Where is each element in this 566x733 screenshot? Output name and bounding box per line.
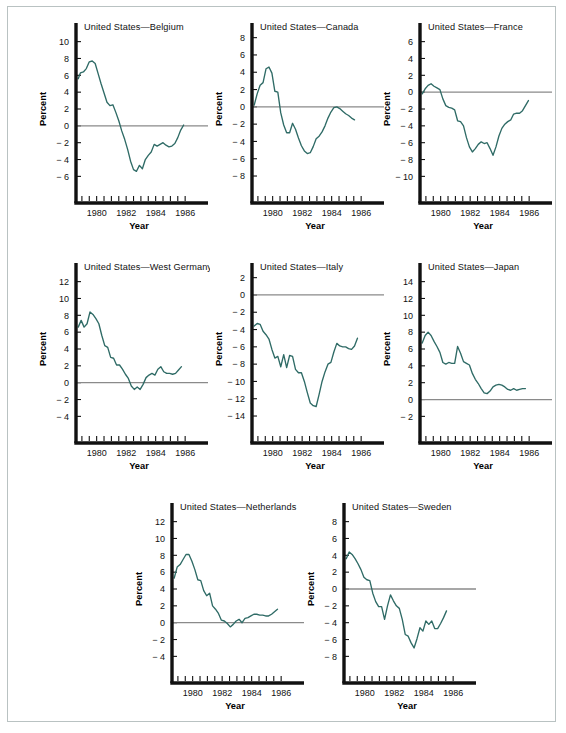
x-axis-title: Year xyxy=(473,461,493,471)
data-series-line xyxy=(254,67,354,153)
y-tick-label: − 4 xyxy=(56,412,69,422)
y-tick-label: 10 xyxy=(403,311,413,321)
y-tick-label: − 4 xyxy=(232,137,245,147)
y-tick-label: − 6 xyxy=(232,342,245,352)
figure-frame: United States—Belgium1086420− 2− 4− 6198… xyxy=(7,6,556,722)
x-tick-label: 1984 xyxy=(322,208,342,218)
data-series-line xyxy=(254,323,357,406)
x-tick-label: 1982 xyxy=(460,448,480,458)
y-tick-label: − 4 xyxy=(232,325,245,335)
x-tick-label: 1980 xyxy=(263,208,283,218)
data-series-line xyxy=(422,332,525,393)
y-tick-label: 12 xyxy=(403,294,413,304)
y-axis-title: Percent xyxy=(214,332,224,366)
y-tick-label: 6 xyxy=(160,567,165,577)
y-tick-label: 8 xyxy=(160,551,165,561)
y-tick-label: 0 xyxy=(64,378,69,388)
x-axis-title: Year xyxy=(473,221,493,231)
x-axis-title: Year xyxy=(305,461,325,471)
chart-panel: United States—West Germany121086420− 2− … xyxy=(30,251,208,479)
x-tick-label: 1986 xyxy=(519,208,539,218)
chart-title: United States—Belgium xyxy=(84,22,184,32)
x-tick-label: 1980 xyxy=(87,448,107,458)
y-axis-title: Percent xyxy=(382,92,392,126)
y-tick-label: − 2 xyxy=(232,119,245,129)
x-tick-label: 1980 xyxy=(431,208,451,218)
y-tick-label: 2 xyxy=(332,567,337,577)
x-tick-label: 1980 xyxy=(87,208,107,218)
data-series-line xyxy=(422,84,528,156)
y-tick-label: 14 xyxy=(403,277,413,287)
y-tick-label: 12 xyxy=(155,517,165,527)
y-tick-label: − 8 xyxy=(232,359,245,369)
x-tick-label: 1984 xyxy=(490,208,510,218)
y-tick-label: − 8 xyxy=(324,652,337,662)
y-tick-label: 8 xyxy=(408,327,413,337)
x-tick-label: 1982 xyxy=(116,208,136,218)
y-tick-label: 12 xyxy=(59,277,69,287)
x-tick-label: 1980 xyxy=(183,688,203,698)
y-tick-label: − 2 xyxy=(324,601,337,611)
chart-title: United States—Italy xyxy=(260,262,343,272)
x-tick-label: 1984 xyxy=(146,208,166,218)
y-tick-label: 4 xyxy=(240,67,245,77)
x-tick-label: 1986 xyxy=(443,688,463,698)
y-tick-label: − 2 xyxy=(56,395,69,405)
data-series-line xyxy=(174,554,277,626)
y-tick-label: 6 xyxy=(240,50,245,60)
y-tick-label: − 10 xyxy=(395,172,413,182)
x-axis-title: Year xyxy=(129,221,149,231)
y-tick-label: 0 xyxy=(64,121,69,131)
y-tick-label: 2 xyxy=(408,71,413,81)
chart-panel: United States—Italy20− 2− 4− 6− 8− 10− 1… xyxy=(206,251,384,479)
y-axis-title: Percent xyxy=(306,572,316,606)
y-tick-label: 0 xyxy=(332,584,337,594)
y-tick-label: − 8 xyxy=(400,155,413,165)
y-tick-label: 8 xyxy=(64,311,69,321)
y-tick-label: − 10 xyxy=(227,377,245,387)
y-tick-label: − 4 xyxy=(56,155,69,165)
y-tick-label: − 4 xyxy=(400,121,413,131)
x-axis-title: Year xyxy=(397,701,417,711)
y-tick-label: 4 xyxy=(408,361,413,371)
y-tick-label: − 8 xyxy=(232,171,245,181)
y-tick-label: − 6 xyxy=(324,635,337,645)
x-tick-label: 1984 xyxy=(322,448,342,458)
x-tick-label: 1986 xyxy=(519,448,539,458)
y-tick-label: 2 xyxy=(64,104,69,114)
y-tick-label: 6 xyxy=(64,71,69,81)
data-series-line xyxy=(78,312,181,389)
x-tick-label: 1982 xyxy=(212,688,232,698)
y-tick-label: 4 xyxy=(64,344,69,354)
x-tick-label: 1986 xyxy=(175,208,195,218)
y-tick-label: 2 xyxy=(408,378,413,388)
y-axis-title: Percent xyxy=(38,332,48,366)
x-tick-label: 1986 xyxy=(271,688,291,698)
x-axis-title: Year xyxy=(225,701,245,711)
y-tick-label: 6 xyxy=(408,37,413,47)
y-tick-label: 4 xyxy=(160,584,165,594)
y-axis-title: Percent xyxy=(134,572,144,606)
y-tick-label: 0 xyxy=(408,395,413,405)
y-axis-title: Percent xyxy=(214,92,224,126)
y-tick-label: 0 xyxy=(240,290,245,300)
x-tick-label: 1982 xyxy=(460,208,480,218)
y-tick-label: − 4 xyxy=(152,652,165,662)
y-tick-label: 8 xyxy=(64,54,69,64)
y-tick-label: − 12 xyxy=(227,394,245,404)
x-tick-label: 1982 xyxy=(384,688,404,698)
x-tick-label: 1982 xyxy=(292,448,312,458)
y-tick-label: 0 xyxy=(240,102,245,112)
y-tick-label: − 2 xyxy=(232,307,245,317)
y-tick-label: 8 xyxy=(240,33,245,43)
x-tick-label: 1986 xyxy=(351,448,371,458)
y-tick-label: 10 xyxy=(155,534,165,544)
chart-title: United States—Netherlands xyxy=(180,502,297,512)
chart-title: United States—France xyxy=(428,22,523,32)
y-tick-label: 6 xyxy=(408,344,413,354)
y-tick-label: 0 xyxy=(160,618,165,628)
chart-panel: United States—Japan14121086420− 21980198… xyxy=(374,251,552,479)
x-tick-label: 1980 xyxy=(431,448,451,458)
chart-title: United States—Sweden xyxy=(352,502,452,512)
chart-panel: United States—France6420− 2− 4− 6− 8− 10… xyxy=(374,11,552,239)
